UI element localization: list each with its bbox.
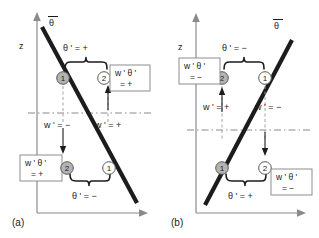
panel-b-w-left-label: w ' = + xyxy=(202,102,229,112)
panel-a-parcel-1-upper: 1 xyxy=(57,72,70,85)
panel-a-z-label: z xyxy=(19,41,24,51)
panel-b-upper-flux-line1: w ' θ ' xyxy=(183,61,206,71)
panel-a-w-right-label: w ' = + xyxy=(94,120,121,130)
panel-b-parcel-1-lower-number: 1 xyxy=(220,164,225,173)
panel-a-parcel-1-upper-number: 1 xyxy=(61,74,66,83)
panel-a-parcel-2-upper: 2 xyxy=(98,72,111,85)
panel-a-upper-flux-line1: w ' θ ' xyxy=(114,68,137,78)
panel-a-w-left-label: w ' = − xyxy=(43,120,70,130)
panel-a-caption: (a) xyxy=(12,217,24,228)
figure-container: z θ θ ' = + w ' = − w ' = + xyxy=(0,0,319,238)
panel-b-upper-theta-label: θ ' = − xyxy=(222,43,247,53)
panel-a-upper-brace xyxy=(65,58,107,70)
panel-b-parcel-1-upper: 1 xyxy=(259,72,272,85)
panel-b-upper-flux-box: w ' θ ' = − xyxy=(179,58,220,84)
panel-b-lower-flux-line1: w ' θ ' xyxy=(275,172,298,182)
panel-a-upper-theta-label: θ ' = + xyxy=(63,43,88,53)
panel-b-downward-arrow xyxy=(262,132,268,156)
panel-a-parcel-2-lower-number: 2 xyxy=(65,164,70,173)
panel-a-lower-flux-line1: w ' θ ' xyxy=(24,158,47,168)
panel-b-theta-bar-label: θ xyxy=(273,20,283,32)
panel-a-lower-theta-label: θ ' = − xyxy=(72,191,97,201)
panel-b-x-axis xyxy=(196,209,306,217)
panel-b-parcel-2-upper-number: 2 xyxy=(220,74,225,83)
panel-a-downward-arrow xyxy=(60,128,66,154)
panel-a-upper-flux-box: w ' θ ' = + xyxy=(110,65,150,91)
panel-b-upper-flux-line2: = − xyxy=(190,72,202,82)
panel-a-lower-flux-box: w ' θ ' = + xyxy=(20,155,62,181)
panel-b-parcel-1-lower: 1 xyxy=(216,162,229,175)
panel-b-lower-flux-box: w ' θ ' = − xyxy=(271,169,312,195)
panel-a-parcel-2-lower: 2 xyxy=(61,162,74,175)
panel-b-lower-theta-label: θ ' = + xyxy=(228,191,253,201)
panel-a-parcel-1-lower-number: 1 xyxy=(107,164,112,173)
panel-a-lower-brace xyxy=(70,174,110,186)
diagram-svg: z θ θ ' = + w ' = − w ' = + xyxy=(0,0,319,238)
panel-a-parcel-2-upper-number: 2 xyxy=(102,74,107,83)
svg-text:θ: θ xyxy=(49,18,54,28)
panel-a-parcel-1-lower: 1 xyxy=(103,162,116,175)
panel-b-caption: (b) xyxy=(171,217,183,228)
panel-a-upper-flux-line2: = + xyxy=(120,79,132,89)
panel-b-parcel-1-upper-number: 1 xyxy=(263,74,268,83)
panel-b-upper-brace xyxy=(224,58,264,70)
panel-a-theta-bar-label: θ xyxy=(48,17,58,29)
panel-b-w-right-label: w ' = − xyxy=(254,102,281,112)
svg-text:θ: θ xyxy=(274,21,279,31)
panel-a-x-axis xyxy=(37,209,148,217)
panel-b-z-label: z xyxy=(178,42,183,52)
panel-a-lower-flux-line2: = + xyxy=(31,169,43,179)
panel-b-parcel-2-lower: 2 xyxy=(259,162,272,175)
panel-b-lower-flux-line2: = − xyxy=(282,183,294,193)
panel-b: z θ θ ' = − w ' = + w ' = − xyxy=(171,13,312,228)
panel-b-z-axis xyxy=(192,13,200,213)
panel-a: z θ θ ' = + w ' = − w ' = + xyxy=(12,12,152,228)
panel-b-lower-brace xyxy=(226,174,266,186)
panel-b-parcel-2-lower-number: 2 xyxy=(263,164,268,173)
